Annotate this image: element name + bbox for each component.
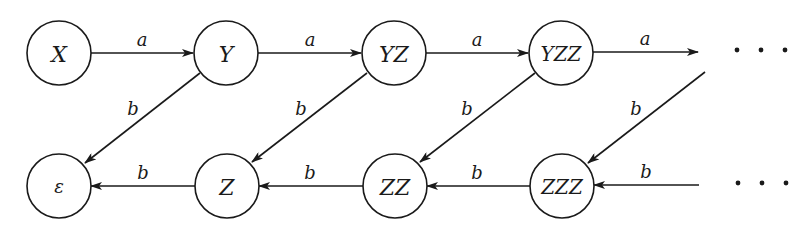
edge-YZ-Z: b [252, 73, 367, 162]
node-label: YZ [379, 42, 410, 67]
edge-ZZZ-ZZ: b [427, 162, 530, 186]
edge-label-b: b [127, 98, 139, 119]
edge-Y-YZ: a [258, 29, 361, 53]
edge-label-b: b [295, 98, 307, 119]
node-label: YZZ [541, 42, 583, 66]
edge-label-b: b [304, 162, 316, 183]
edge-YZ-YZZ: a [426, 29, 528, 53]
edge-label-b: b [630, 98, 642, 119]
edge-label-b: b [640, 161, 652, 182]
edge-Y-eps: b [85, 73, 200, 163]
edge-YZZ-continuation: a [593, 28, 698, 52]
node-label: ε [54, 176, 64, 197]
edge-continuation-ZZZ: b [594, 161, 699, 185]
edge-label-b: b [137, 162, 149, 183]
edge-X-Y: a [91, 29, 193, 53]
node-YZZ: YZZ [529, 21, 593, 85]
node-ZZ: ZZ [363, 154, 427, 218]
edge-label-a: a [472, 29, 483, 50]
node-YZ: YZ [362, 21, 426, 85]
edge-continuation-ZZZ-diagonal: b [588, 72, 705, 163]
node-label: Z [218, 175, 235, 200]
edge-label-a: a [305, 29, 316, 50]
node-ZZZ: ZZZ [530, 154, 594, 218]
node-label: ZZZ [540, 175, 584, 199]
edge-Z-eps: b [91, 162, 195, 186]
node-X: X [27, 21, 91, 85]
edge-label-b: b [461, 98, 473, 119]
node-Z: Z [195, 154, 259, 218]
edge-YZZ-ZZ: b [420, 73, 535, 162]
ellipsis-top [735, 48, 788, 53]
edge-label-a: a [137, 29, 148, 50]
edge-label-b: b [471, 162, 483, 183]
node-label: ZZ [379, 175, 411, 200]
ellipsis-bottom [736, 181, 789, 186]
state-diagram: a a a a b b b b b b b b [0, 0, 809, 231]
node-label: Y [219, 42, 236, 67]
edge-label-a: a [640, 28, 651, 49]
node-label: X [49, 42, 68, 67]
edge-ZZ-Z: b [259, 162, 363, 186]
node-epsilon: ε [27, 154, 91, 218]
node-Y: Y [194, 21, 258, 85]
